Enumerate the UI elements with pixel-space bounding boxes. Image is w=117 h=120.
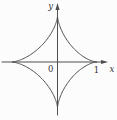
astroid-figure: y x 0 1 (0, 0, 117, 120)
y-axis-arrow-icon (55, 3, 59, 10)
x-axis-label: x (110, 64, 115, 74)
x-axis-arrow-icon (101, 60, 108, 64)
y-axis-label: y (47, 1, 53, 11)
figure-svg: y x 0 1 (0, 0, 117, 120)
x-tick-label: 1 (94, 65, 99, 75)
origin-label: 0 (48, 64, 53, 74)
